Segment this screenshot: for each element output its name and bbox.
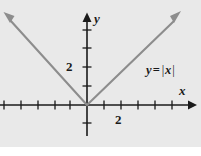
equation-variable: x <box>165 63 172 77</box>
graph-canvas <box>0 0 201 156</box>
absolute-value-graph-figure: 2 2 y x y=|x| <box>0 0 201 156</box>
equation-abs-bar-close: | <box>172 63 176 77</box>
y-axis-label: y <box>94 12 100 25</box>
equation-lhs: y <box>146 63 152 77</box>
x-axis-tick-label-2: 2 <box>115 113 122 126</box>
y-axis-tick-label-2: 2 <box>66 60 73 73</box>
y-axis-arrowhead-icon <box>83 13 92 23</box>
curve-left-arrowhead-icon <box>4 12 15 23</box>
x-axis-arrowhead-icon <box>188 101 197 110</box>
equation-equals-sign: = <box>152 63 161 77</box>
curve-right-arrowhead-icon <box>170 11 181 23</box>
equation-annotation: y=|x| <box>146 64 175 77</box>
x-axis-label: x <box>179 84 186 97</box>
